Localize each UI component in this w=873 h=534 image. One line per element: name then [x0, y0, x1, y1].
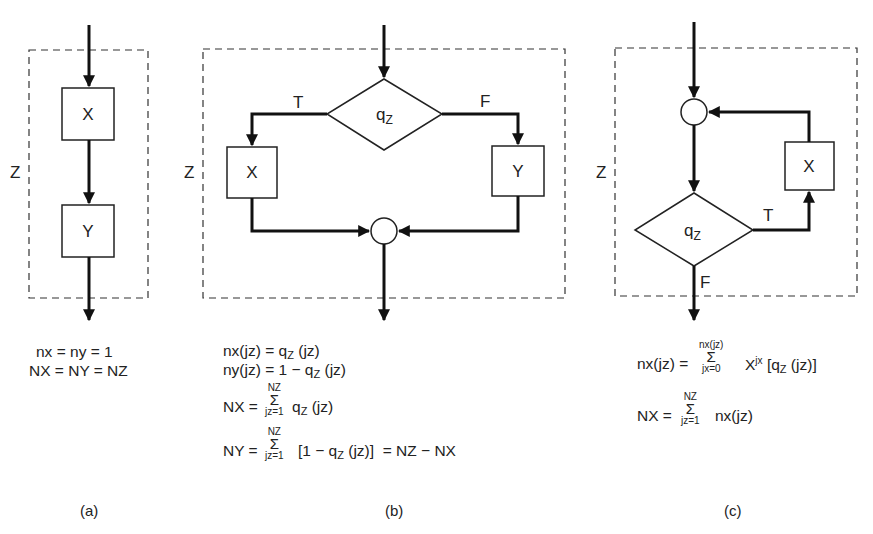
caption-b: (b) [385, 502, 403, 519]
true-label: T [763, 206, 773, 225]
group-z-label: Z [184, 163, 194, 182]
x-to-join-arrow [252, 198, 369, 231]
equation-b-nx: nx(jz) = qZ (jz) [223, 343, 320, 361]
equation-a-2: NX = NY = NZ [29, 363, 128, 379]
true-branch-arrow [252, 114, 327, 145]
box-x-label: X [82, 105, 93, 124]
panel-c-iteration: Z qZ T X F [596, 22, 857, 320]
loop-back-arrow [709, 112, 809, 142]
group-z-label: Z [596, 163, 606, 182]
loop-join-connector [681, 99, 707, 125]
caption-a: (a) [80, 502, 98, 519]
box-y-label: Y [82, 222, 93, 241]
box-y-label: Y [512, 162, 523, 181]
equation-b-ny: ny(jz) = 1 − qZ (jz) [223, 362, 346, 380]
equation-a-1: nx = ny = 1 [36, 344, 113, 360]
false-label: F [480, 92, 490, 111]
true-label: T [293, 93, 303, 112]
panel-b-selection: Z qZ T F X Y [184, 25, 565, 320]
false-label: F [700, 273, 710, 292]
group-z-label: Z [10, 163, 20, 182]
join-connector [371, 218, 397, 244]
y-to-join-arrow [399, 196, 518, 231]
false-branch-arrow [442, 114, 518, 144]
true-branch-arrow [753, 192, 809, 230]
caption-c: (c) [724, 502, 742, 519]
panel-a-sequence: Z X Y [10, 25, 148, 320]
box-x-label: X [246, 163, 257, 182]
box-x-label: X [803, 157, 814, 176]
